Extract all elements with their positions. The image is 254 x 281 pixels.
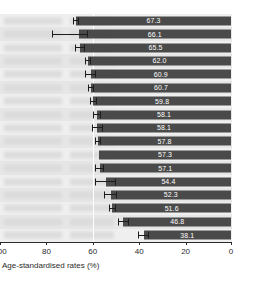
bar: 65.5: [80, 43, 231, 52]
error-bar-cap-right: [100, 138, 101, 145]
error-bar-cap-left: [93, 111, 94, 118]
category-label-redacted-1: [4, 57, 62, 64]
x-axis-tick-label: 20: [181, 247, 190, 257]
chart-row: 51.6: [0, 202, 232, 215]
bar: 52.3: [111, 190, 231, 199]
plot-area: 67.366.165.562.060.960.759.858.158.157.8…: [0, 14, 232, 242]
x-axis-tick: [46, 242, 47, 245]
bar: 58.1: [97, 110, 231, 119]
bar-value-label: 51.6: [112, 204, 231, 212]
chart-row: 58.1: [0, 121, 232, 134]
error-bar: [109, 205, 116, 212]
error-bar-cap-right: [115, 205, 116, 212]
error-bar-line: [95, 181, 116, 182]
x-axis-title: Age-standardised rates (%): [2, 261, 99, 271]
category-label-redacted-1: [4, 218, 62, 225]
bar-value-label: 62.0: [88, 57, 231, 65]
bar-value-label: 66.1: [79, 30, 231, 38]
error-bar: [90, 98, 97, 105]
bar-value-label: 57.8: [98, 137, 231, 145]
category-label-redacted-1: [4, 44, 62, 51]
bar-value-label: 57.1: [100, 164, 231, 172]
chart-row: 38.1: [0, 229, 232, 242]
error-bar-cap-right: [84, 44, 85, 51]
category-label-redacted-1: [4, 124, 62, 131]
category-label-redacted-1: [4, 71, 62, 78]
bar: 54.4: [106, 177, 231, 186]
bar-value-label: 59.8: [93, 97, 231, 105]
chart-row: 46.8: [0, 215, 232, 228]
bar-value-label: 57.3: [99, 151, 231, 159]
x-axis-tick-label: 60: [88, 247, 97, 257]
error-bar-cap-left: [85, 57, 86, 64]
bar-value-label: 67.3: [76, 17, 231, 25]
error-bar-cap-right: [96, 98, 97, 105]
error-bar: [85, 57, 91, 64]
chart-row: 62.0: [0, 54, 232, 67]
category-label-redacted-1: [4, 232, 62, 239]
error-bar-cap-left: [88, 84, 89, 91]
error-bar-line: [52, 34, 87, 35]
error-bar: [95, 165, 104, 172]
error-bar-cap-left: [95, 138, 96, 145]
category-label-redacted-1: [4, 98, 62, 105]
error-bar-cap-right: [90, 57, 91, 64]
error-bar-cap-right: [115, 178, 116, 185]
error-bar: [75, 44, 85, 51]
bar-value-label: 58.1: [97, 124, 231, 132]
error-bar-cap-left: [95, 178, 96, 185]
category-label-redacted-1: [4, 111, 62, 118]
x-axis-tick: [139, 242, 140, 245]
chart-row: 57.3: [0, 148, 232, 161]
bar-value-label: 58.1: [97, 111, 231, 119]
x-axis-tick-label: 40: [135, 247, 144, 257]
category-label-redacted-1: [4, 191, 62, 198]
error-bar: [85, 71, 96, 78]
error-bar-cap-left: [73, 17, 74, 24]
bar: 60.9: [91, 70, 231, 79]
bar-value-label: 60.9: [91, 70, 231, 78]
x-axis-tick: [231, 242, 232, 245]
error-bar-cap-right: [87, 31, 88, 38]
error-bar-cap-right: [78, 17, 79, 24]
chart-row: 57.1: [0, 161, 232, 174]
error-bar-cap-left: [85, 71, 86, 78]
x-axis-tick-label: 80: [42, 247, 51, 257]
error-bar-cap-left: [118, 218, 119, 225]
bar-value-label: 52.3: [111, 191, 231, 199]
bar: 51.6: [112, 204, 231, 213]
bar: 60.7: [91, 83, 231, 92]
error-bar: [88, 84, 94, 91]
error-bar-cap-left: [52, 31, 53, 38]
bar-chart: 67.366.165.562.060.960.759.858.158.157.8…: [0, 0, 254, 281]
x-axis-tick: [0, 242, 1, 245]
bar: 46.8: [123, 217, 231, 226]
error-bar-cap-left: [75, 44, 76, 51]
category-label-redacted-1: [4, 178, 62, 185]
bar: 62.0: [88, 56, 231, 65]
bar-value-label: 38.1: [144, 231, 231, 239]
error-bar-cap-left: [109, 205, 110, 212]
x-axis-tick: [186, 242, 187, 245]
category-label-redacted-1: [4, 84, 62, 91]
chart-row: 60.9: [0, 68, 232, 81]
error-bar-cap-right: [128, 218, 129, 225]
error-bar-cap-right: [95, 71, 96, 78]
error-bar-cap-right: [103, 165, 104, 172]
bar: 57.8: [98, 137, 231, 146]
chart-row: 67.3: [0, 14, 232, 27]
error-bar-cap-left: [104, 191, 105, 198]
error-bar: [52, 31, 87, 38]
error-bar-cap-left: [92, 124, 93, 131]
error-bar: [138, 232, 150, 239]
error-bar: [92, 124, 103, 131]
error-bar: [95, 138, 101, 145]
x-axis-tick-label: 0: [229, 247, 233, 257]
x-axis-tick: [93, 242, 94, 245]
x-axis-line: [0, 242, 232, 243]
error-bar: [118, 218, 130, 225]
error-bar-cap-right: [116, 191, 117, 198]
error-bar-cap-right: [148, 232, 149, 239]
category-label-redacted-1: [4, 205, 62, 212]
bar-value-label: 46.8: [123, 218, 231, 226]
